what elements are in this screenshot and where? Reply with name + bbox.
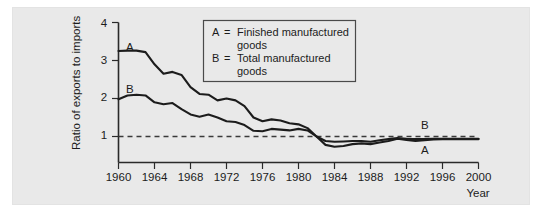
x-tick-label-1972: 1972 (214, 171, 240, 183)
curve-label-a-left: A (126, 41, 134, 53)
figure-root: Ratio of exports to imports 4 3 2 1 1960… (0, 0, 543, 213)
x-tick-label-1996: 1996 (430, 171, 456, 183)
x-tick-label-1964: 1964 (142, 171, 168, 183)
y-tick-label-1: 1 (101, 129, 107, 141)
x-tick-label-1968: 1968 (178, 171, 204, 183)
y-tick-label-3: 3 (101, 54, 107, 66)
legend-eq-b: = (224, 52, 230, 64)
legend-eq-a: = (224, 26, 230, 38)
x-tick-label-1988: 1988 (358, 171, 384, 183)
x-tick-label-1992: 1992 (394, 171, 420, 183)
legend-key-b: B (212, 52, 219, 64)
curve-label-a-right: A (421, 144, 429, 156)
y-tick-label-4: 4 (101, 17, 108, 29)
x-tick-label-1976: 1976 (250, 171, 276, 183)
legend-label-b-line1: Total manufactured (237, 52, 331, 64)
y-axis-title: Ratio of exports to imports (70, 16, 82, 150)
ratio-exports-imports-chart: Ratio of exports to imports 4 3 2 1 1960… (0, 0, 543, 213)
y-tick-label-2: 2 (101, 91, 107, 103)
legend-label-a-line2: goods (237, 39, 267, 51)
legend-label-a-line1: Finished manufactured (237, 26, 349, 38)
legend-key-a: A (212, 26, 220, 38)
x-tick-label-1980: 1980 (286, 171, 312, 183)
x-tick-label-2000: 2000 (466, 171, 492, 183)
legend-label-b-line2: goods (237, 65, 267, 77)
x-axis-title: Year (466, 187, 489, 199)
x-tick-label-1984: 1984 (322, 171, 348, 183)
curve-label-b-right: B (421, 119, 429, 131)
x-tick-label-1960: 1960 (106, 171, 132, 183)
curve-label-b-left: B (126, 83, 134, 95)
